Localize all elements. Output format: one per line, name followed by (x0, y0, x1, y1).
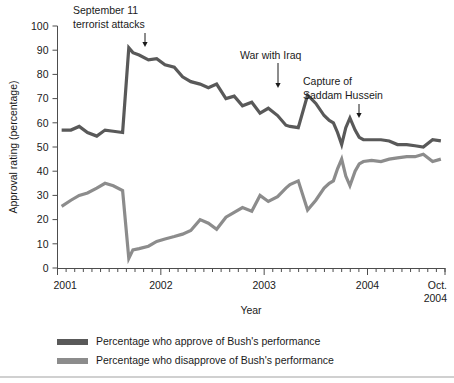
y-tick-label: 90 (37, 44, 49, 56)
y-tick-label: 80 (37, 68, 49, 80)
annotation-label: September 11 (73, 4, 138, 16)
legend-label-approve: Percentage who approve of Bush's perform… (96, 335, 321, 347)
data-series-group (62, 48, 441, 259)
annotation-label: terrorist attacks (73, 18, 145, 30)
y-tick-label: 50 (37, 141, 49, 153)
x-axis-title: Year (240, 304, 262, 316)
x-tick-label-final-year: 2004 (424, 292, 448, 304)
annotation-label: Capture of (303, 75, 352, 87)
x-axis-ticks: 2001200220032004Oct.2004 (54, 268, 448, 304)
y-tick-label: 0 (43, 262, 49, 274)
annotation-arrow-head (356, 113, 361, 118)
y-axis-ticks: 0102030405060708090100 (31, 20, 58, 274)
chart-figure: Approval rating (percentage) 01020304050… (0, 0, 454, 383)
annotation-sept11: September 11terrorist attacks (73, 4, 148, 47)
annotation-label: War with Iraq (240, 49, 302, 61)
y-tick-label: 30 (37, 189, 49, 201)
series-line-approve (62, 48, 441, 147)
x-tick-label: 2001 (54, 279, 78, 291)
approval-rating-line-chart: Approval rating (percentage) 01020304050… (0, 0, 454, 383)
y-tick-label: 70 (37, 92, 49, 104)
legend: Percentage who approve of Bush's perform… (57, 335, 334, 366)
y-tick-label: 100 (31, 20, 49, 32)
series-line-disapprove (62, 154, 441, 258)
legend-label-disapprove: Percentage who disapprove of Bush's perf… (96, 354, 334, 366)
x-tick-label: 2002 (149, 279, 173, 291)
x-tick-label: 2004 (356, 279, 380, 291)
annotation-war-iraq: War with Iraq (240, 49, 302, 88)
legend-swatch-approve (57, 339, 88, 345)
annotation-label: Saddam Hussein (303, 89, 383, 101)
y-tick-label: 40 (37, 165, 49, 177)
legend-swatch-disapprove (57, 358, 88, 364)
x-tick-label: 2003 (252, 279, 276, 291)
annotation-arrow-head (275, 83, 280, 88)
annotation-saddam-capture: Capture ofSaddam Hussein (303, 75, 383, 118)
y-axis-title: Approval rating (percentage) (7, 80, 19, 213)
x-tick-label-final-month: Oct. (428, 279, 447, 291)
annotation-arrow-head (142, 42, 147, 47)
annotations-group: September 11terrorist attacksWar with Ir… (73, 4, 383, 118)
y-axis-title-group: Approval rating (percentage) (7, 80, 19, 213)
y-tick-label: 20 (37, 213, 49, 225)
y-tick-label: 60 (37, 117, 49, 129)
y-tick-label: 10 (37, 238, 49, 250)
